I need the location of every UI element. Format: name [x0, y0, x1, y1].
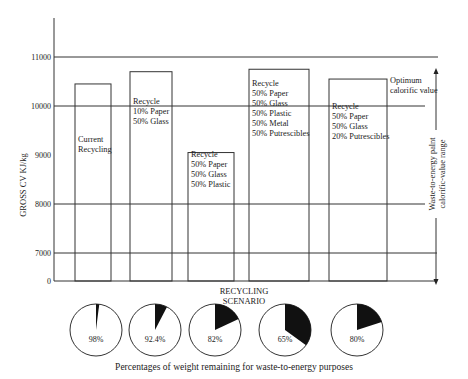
arrow-up-icon	[434, 68, 439, 74]
pie-label: 98%	[89, 335, 104, 344]
y-tick-label: 9000	[35, 151, 51, 160]
y-axis: 07000800090001000011000GROSS CV KJ/kgREC…	[18, 18, 437, 306]
y-axis-title: GROSS CV KJ/kg	[18, 152, 28, 216]
y-tick-label: 7000	[35, 249, 51, 258]
bar	[75, 84, 111, 281]
pie-label: 92.4%	[145, 335, 166, 344]
y-tick-label: 10000	[31, 102, 51, 111]
optimum-annotation: Optimumcalorific value	[390, 76, 438, 95]
bar-label: CurrentRecycling	[78, 135, 112, 154]
pie-caption: Percentages of weight remaining for wast…	[115, 362, 353, 372]
y-tick-label: 0	[47, 277, 51, 286]
gridlines	[54, 57, 438, 253]
arrow-down-icon	[434, 279, 439, 285]
x-axis-title: RECYCLINGSCENARIO	[220, 286, 269, 306]
bar-label: Recycle50% Paper50% Glass50% Plastic50% …	[252, 79, 309, 138]
bars: CurrentRecyclingRecycle10% Paper50% Glas…	[75, 69, 389, 281]
bar-label: Recycle50% Paper50% Glass20% Putrescible…	[332, 102, 389, 141]
pies: 98%92.4%82%65%80%Percentages of weight r…	[70, 304, 383, 372]
bar-label: Recycle10% Paper50% Glass	[133, 97, 169, 126]
y-tick-label: 8000	[35, 200, 51, 209]
pie-label: 80%	[350, 335, 365, 344]
pie-label: 82%	[208, 335, 223, 344]
chart-canvas: CurrentRecyclingRecycle10% Paper50% Glas…	[0, 0, 468, 379]
range-annotation: Waste-to-energy palntcalorific-value ran…	[428, 137, 447, 211]
bar-label: Recycle50% Paper50% Glass50% Plastic	[191, 150, 231, 189]
y-tick-label: 11000	[31, 53, 51, 62]
annotations: Optimumcalorific valueWaste-to-energy pa…	[390, 68, 447, 285]
pie-label: 65%	[278, 335, 293, 344]
